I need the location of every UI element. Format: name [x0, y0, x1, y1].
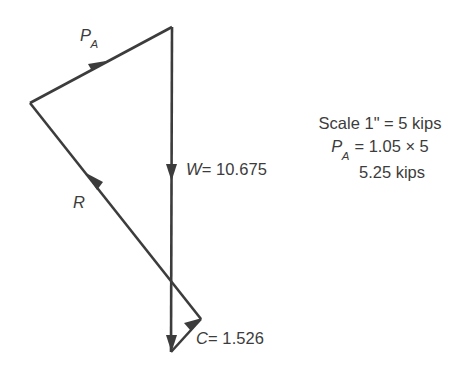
scale-note-line-2: PA = 1.05 × 5 [296, 135, 464, 161]
force-polygon-figure: PA R W= 10.675 C= 1.526 Scale 1" = 5 kip… [0, 0, 476, 383]
vector-line-w [171, 27, 172, 352]
scale-note-pa-subscript: A [342, 150, 350, 162]
vector-label-pa-subscript: A [91, 38, 99, 50]
vector-label-c-separator: = [208, 329, 218, 347]
vector-label-c: C= 1.526 [196, 330, 264, 347]
arrowhead-w-bottom-icon [166, 335, 177, 352]
vector-label-w-symbol: W [186, 160, 202, 178]
arrowhead-w-icon [166, 164, 177, 181]
vector-label-w-value: 10.675 [216, 160, 267, 178]
arrowhead-r-icon [86, 173, 103, 190]
vector-label-c-symbol: C [196, 329, 208, 347]
scale-note-pa-expression: = 1.05 × 5 [354, 137, 428, 155]
scale-note-line-3: 5.25 kips [296, 161, 464, 184]
scale-note-pa-symbol: P [331, 137, 342, 155]
vector-label-w: W= 10.675 [186, 161, 267, 178]
vector-label-r: R [73, 194, 85, 211]
vector-label-pa: PA [80, 27, 99, 47]
vector-label-c-value: 1.526 [222, 329, 264, 347]
scale-note-line-1: Scale 1" = 5 kips [296, 112, 464, 135]
vector-line-r [30, 103, 201, 319]
scale-annotation: Scale 1" = 5 kips PA = 1.05 × 5 5.25 kip… [296, 112, 464, 184]
vector-label-pa-symbol: P [80, 26, 91, 44]
vector-label-w-separator: = [202, 160, 212, 178]
vector-line-pa [30, 27, 172, 103]
vector-diagram-canvas [0, 0, 476, 383]
